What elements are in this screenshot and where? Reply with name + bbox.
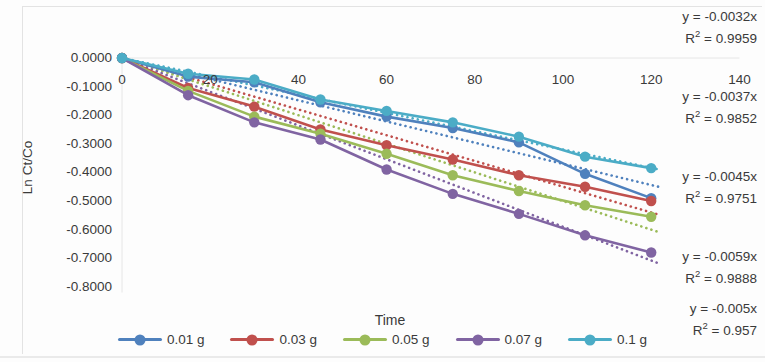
legend-marker-icon [472, 334, 483, 345]
x-axis-tick-label: 140 [728, 72, 751, 87]
trendline-r-squared: R2 = 0.9959 [682, 25, 757, 47]
trendline-annotation-3: y = -0.0059xR2 = 0.9888 [682, 248, 757, 287]
chart-legend: 0.01 g0.03 g0.05 g0.07 g0.1 g [0, 332, 765, 347]
legend-label: 0.03 g [279, 332, 317, 347]
x-axis-tick-label: 80 [467, 72, 482, 87]
line-chart-svg [0, 0, 765, 362]
y-axis-tick-label: -0.4000 [26, 165, 112, 179]
trendline-r-squared: R2 = 0.9888 [682, 265, 757, 287]
trendline-r-squared: R2 = 0.9751 [682, 185, 757, 207]
legend-line-swatch [118, 338, 162, 341]
legend-item-0-05-g[interactable]: 0.05 g [343, 332, 430, 347]
chart-root: 0.0000-0.1000-0.2000-0.3000-0.4000-0.500… [0, 0, 765, 362]
data-point-marker [183, 69, 193, 79]
data-point-marker [646, 163, 656, 173]
data-point-marker [514, 209, 524, 219]
plot-area [0, 0, 765, 362]
y-axis-tick-label: -0.3000 [26, 137, 112, 151]
data-point-marker [249, 101, 259, 111]
data-point-marker [514, 186, 524, 196]
data-point-marker [249, 117, 259, 127]
data-point-marker [646, 247, 656, 257]
data-point-marker [381, 164, 391, 174]
data-point-marker [117, 53, 127, 63]
y-axis-tick-label: -0.1000 [26, 80, 112, 94]
trendline-equation: y = -0.0032x [682, 8, 757, 25]
legend-item-0-07-g[interactable]: 0.07 g [456, 332, 543, 347]
legend-marker-icon [359, 334, 370, 345]
data-point-marker [249, 74, 259, 84]
y-axis-tick-label: -0.7000 [26, 251, 112, 265]
legend-line-swatch [456, 338, 500, 341]
y-axis-tick-labels: 0.0000-0.1000-0.2000-0.3000-0.4000-0.500… [26, 0, 112, 362]
x-axis-tick-label: 40 [291, 72, 306, 87]
x-axis-tick-label: 20 [203, 72, 218, 87]
y-axis-tick-label: -0.8000 [26, 280, 112, 294]
x-axis-tick-label: 100 [552, 72, 575, 87]
data-point-marker [315, 134, 325, 144]
legend-label: 0.07 g [505, 332, 543, 347]
data-point-marker [183, 90, 193, 100]
data-point-marker [448, 154, 458, 164]
x-axis-tick-label: 120 [640, 72, 663, 87]
data-point-marker [315, 94, 325, 104]
trendline-annotation-0: y = -0.0032xR2 = 0.9959 [682, 8, 757, 47]
data-point-marker [448, 170, 458, 180]
data-point-marker [448, 189, 458, 199]
y-axis-tick-label: 0.0000 [26, 51, 112, 65]
y-axis-title: Ln Ct/Co [20, 108, 35, 228]
trendline-equation: y = -0.005x [690, 300, 757, 317]
data-point-marker [448, 117, 458, 127]
data-point-marker [646, 196, 656, 206]
data-point-marker [580, 200, 590, 210]
y-axis-tick-label: -0.2000 [26, 108, 112, 122]
x-axis-tick-label: 0 [118, 72, 126, 87]
trendline-annotation-2: y = -0.0045xR2 = 0.9751 [682, 168, 757, 207]
legend-label: 0.01 g [167, 332, 205, 347]
legend-line-swatch [568, 338, 612, 341]
trendline-equation: y = -0.0045x [682, 168, 757, 185]
data-point-marker [381, 106, 391, 116]
data-point-marker [646, 212, 656, 222]
legend-line-swatch [343, 338, 387, 341]
data-point-marker [514, 170, 524, 180]
trendline-equation: y = -0.0059x [682, 248, 757, 265]
legend-line-swatch [230, 338, 274, 341]
legend-item-0-03-g[interactable]: 0.03 g [230, 332, 317, 347]
x-axis-tick-label: 60 [379, 72, 394, 87]
trendline-equation: y = -0.0037x [682, 88, 757, 105]
data-point-marker [514, 131, 524, 141]
legend-label: 0.1 g [617, 332, 647, 347]
trendline-annotation-1: y = -0.0037xR2 = 0.9852 [682, 88, 757, 127]
data-point-marker [381, 149, 391, 159]
legend-marker-icon [247, 334, 258, 345]
trendline-r-squared: R2 = 0.9852 [682, 105, 757, 127]
y-axis-tick-label: -0.6000 [26, 223, 112, 237]
legend-marker-icon [134, 334, 145, 345]
data-point-marker [580, 182, 590, 192]
y-axis-tick-label: -0.5000 [26, 194, 112, 208]
x-axis-title: Time [330, 312, 450, 328]
data-point-marker [580, 151, 590, 161]
legend-marker-icon [585, 334, 596, 345]
legend-item-0-1-g[interactable]: 0.1 g [568, 332, 647, 347]
legend-item-0-01-g[interactable]: 0.01 g [118, 332, 205, 347]
legend-label: 0.05 g [392, 332, 430, 347]
data-point-marker [580, 230, 590, 240]
data-point-marker [580, 169, 590, 179]
